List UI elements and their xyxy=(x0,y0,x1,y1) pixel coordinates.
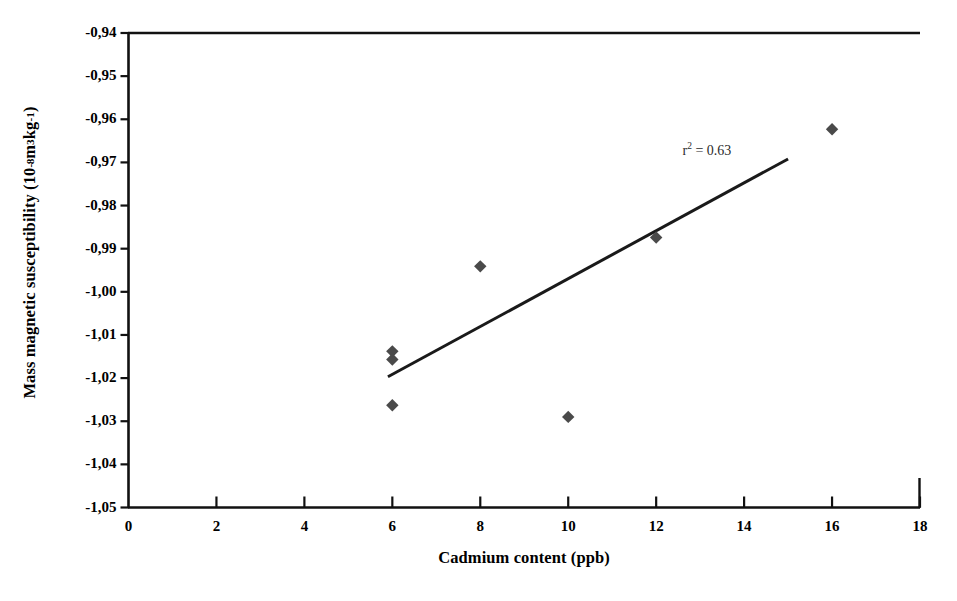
x-axis-ticks xyxy=(216,497,920,508)
y-axis-title-unit: kg xyxy=(20,122,40,140)
y-axis-title: Mass magnetic susceptibility (10-8 m3kg-… xyxy=(10,0,50,505)
y-tick-label: -0,96 xyxy=(53,111,117,126)
y-tick-label: -1,03 xyxy=(53,413,117,428)
x-axis-title: Cadmium content (ppb) xyxy=(128,548,920,568)
x-tick-label: 6 xyxy=(372,519,412,534)
trend-line-segment xyxy=(388,159,788,377)
data-point-diamond xyxy=(826,123,838,135)
y-tick-label: -1,01 xyxy=(53,327,117,342)
r-squared-value: = 0.63 xyxy=(692,142,731,157)
y-tick-label: -1,04 xyxy=(53,456,117,471)
x-tick-label: 16 xyxy=(812,519,852,534)
x-tick-label: 18 xyxy=(900,519,940,534)
y-tick-label: -1,02 xyxy=(53,370,117,385)
y-axis-title-main: Mass magnetic susceptibility (10 xyxy=(20,168,40,399)
data-point-diamond xyxy=(386,399,398,411)
data-point-diamond xyxy=(474,260,486,272)
y-tick-label: -0,98 xyxy=(53,198,117,213)
x-tick-label: 8 xyxy=(460,519,500,534)
x-tick-label: 2 xyxy=(196,519,236,534)
scatter-plot-figure: -0,94-0,95-0,96-0,97-0,98-0,99-1,00-1,01… xyxy=(0,0,957,601)
y-axis-title-exponent-1: -8 xyxy=(24,159,36,168)
y-axis-title-exponent-3: -1 xyxy=(24,112,36,122)
y-tick-label: -1,05 xyxy=(53,500,117,515)
x-tick-label: 12 xyxy=(636,519,676,534)
x-tick-label: 0 xyxy=(109,519,149,534)
y-tick-label: -1,00 xyxy=(53,284,117,299)
x-tick-label: 14 xyxy=(724,519,764,534)
y-axis-title-mid: m xyxy=(20,145,40,159)
y-tick-label: -0,94 xyxy=(53,25,117,40)
y-axis-title-close: ) xyxy=(20,106,40,112)
r-squared-annotation: r2 = 0.63 xyxy=(683,141,732,159)
y-tick-label: -0,97 xyxy=(53,154,117,169)
data-point-diamond xyxy=(386,353,398,365)
data-point-diamond xyxy=(562,411,574,423)
y-axis-title-exponent-2: 3 xyxy=(24,139,36,145)
trend-line xyxy=(388,159,788,377)
plot-canvas xyxy=(0,0,957,601)
y-tick-label: -0,99 xyxy=(53,241,117,256)
x-tick-label: 10 xyxy=(548,519,588,534)
x-tick-label: 4 xyxy=(284,519,324,534)
plot-frame xyxy=(128,33,920,508)
y-tick-label: -0,95 xyxy=(53,68,117,83)
